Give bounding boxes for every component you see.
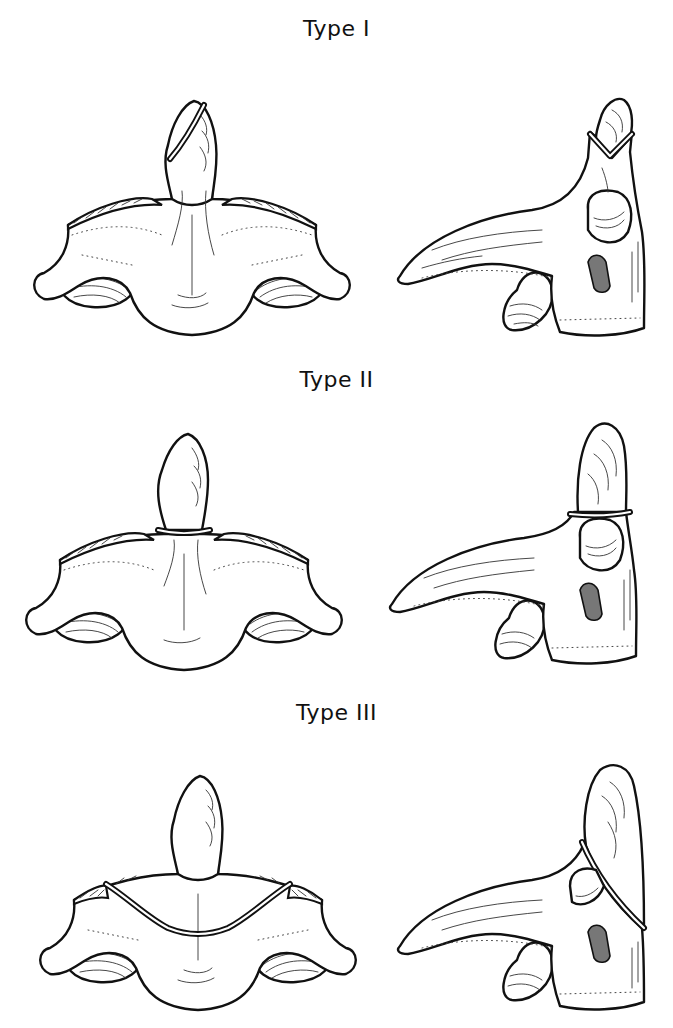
- type-3-label: Type III: [0, 700, 673, 725]
- type-1-anterior-view: [22, 95, 362, 345]
- type-2-anterior-view: [14, 430, 354, 680]
- type-1-label: Type I: [0, 16, 673, 41]
- vertebra-anterior-drawing: [28, 770, 368, 1020]
- vertebra-anterior-drawing: [14, 430, 354, 680]
- type-2-label: Type II: [0, 367, 673, 392]
- vertebra-lateral-drawing: [384, 420, 654, 670]
- type-1-lateral-view: [392, 92, 662, 342]
- type-3-anterior-view: [28, 770, 368, 1020]
- vertebra-lateral-drawing: [392, 762, 662, 1022]
- type-2-lateral-view: [384, 420, 654, 670]
- vertebra-lateral-drawing: [392, 92, 662, 342]
- type-3-lateral-view: [392, 762, 662, 1022]
- vertebra-anterior-drawing: [22, 95, 362, 345]
